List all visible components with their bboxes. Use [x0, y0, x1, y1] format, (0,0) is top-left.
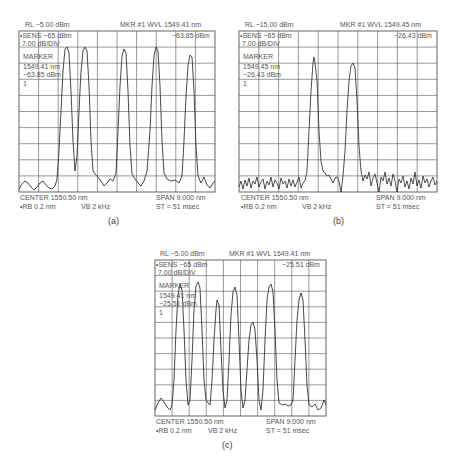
marker-readout: −25.51 dBm — [282, 261, 320, 268]
reference-level: RL −5.00 dBm — [160, 250, 205, 257]
resolution-bandwidth: •RB 0.2 nm — [156, 427, 192, 434]
marker-wavelength: 1549.41 nm — [23, 63, 60, 70]
video-bandwidth: VB 2 kHz — [208, 427, 237, 434]
span-label: SPAN 9.000 nm — [156, 194, 206, 201]
marker-title: MARKER — [159, 282, 189, 289]
marker-wavelength: 1549.41 nm — [159, 292, 196, 299]
sensitivity-label: •SENS −65 dBm — [20, 32, 72, 39]
resolution-bandwidth: •RB 0.2 nm — [20, 203, 56, 210]
marker-wavelength-header: MKR #1 WVL 1549.45 nm — [340, 21, 421, 28]
resolution-bandwidth: •RB 0.2 nm — [241, 203, 277, 210]
center-wavelength: CENTER 1550.50 nm — [156, 418, 224, 425]
reference-level: RL −15.00 dBm — [245, 21, 294, 28]
center-wavelength: CENTER 1550.50 nm — [241, 194, 309, 201]
scale-label: 7.00 dB/DIV — [242, 40, 280, 47]
caption-b: (b) — [333, 216, 344, 226]
sensitivity-label: •SENS −65 dBm — [156, 261, 208, 268]
sweep-time: ST = 51 msec — [376, 203, 419, 210]
video-bandwidth: VB 2 kHz — [302, 203, 331, 210]
span-label: SPAN 9.000 nm — [376, 194, 426, 201]
marker-number: 1 — [159, 309, 163, 316]
marker-wavelength-header: MKR #1 WVL 1549.41 nm — [229, 250, 310, 257]
marker-wavelength-header: MKR #1 WVL 1549.41 nm — [120, 21, 201, 28]
scale-label: 7.00 dB/DIV — [158, 269, 196, 276]
marker-number: 1 — [23, 80, 27, 87]
marker-wavelength: 1549.45 nm — [243, 63, 280, 70]
marker-title: MARKER — [23, 53, 53, 60]
marker-readout: −26.43 dBm — [394, 32, 432, 39]
caption-a: (a) — [108, 216, 119, 226]
marker-number: 1 — [243, 80, 247, 87]
marker-power: −63.85 dBm — [23, 71, 61, 78]
marker-readout: −63.85 dBm — [172, 32, 210, 39]
marker-power: −26.43 dBm — [243, 71, 281, 78]
center-wavelength: CENTER 1550.50 nm — [20, 194, 88, 201]
scale-label: 7.00 dB/DIV — [22, 40, 60, 47]
marker-title: MARKER — [243, 53, 273, 60]
sweep-time: ST = 51 msec — [156, 203, 199, 210]
video-bandwidth: VB 2 kHz — [81, 203, 110, 210]
sensitivity-label: •SENS −65 dBm — [240, 32, 292, 39]
reference-level: RL −5.00 dBm — [25, 21, 70, 28]
marker-power: −25.51 dBm — [159, 300, 197, 307]
span-label: SPAN 9.000 nm — [266, 418, 316, 425]
sweep-time: ST = 51 msec — [266, 427, 309, 434]
caption-c: (c) — [222, 440, 233, 450]
